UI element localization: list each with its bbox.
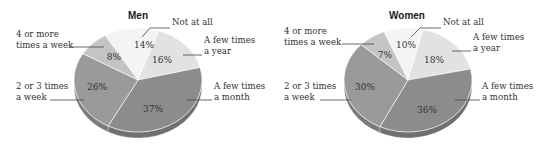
- data-label: 16%: [152, 55, 172, 65]
- data-label: 7%: [378, 50, 393, 60]
- chart-title: Women: [389, 10, 425, 21]
- category-label: A few timesa month: [213, 81, 265, 102]
- category-label: 4 or moretimes a week: [16, 29, 74, 50]
- chart-title: Men: [128, 10, 148, 21]
- pie-chart-men: Men14%16%37%26%8%Not at allA few timesa …: [16, 10, 265, 138]
- data-label: 18%: [424, 55, 444, 65]
- category-label: Not at all: [172, 17, 213, 27]
- category-label: A few timesa year: [472, 32, 524, 53]
- category-label: Not at all: [443, 17, 484, 27]
- category-label: A few timesa month: [481, 81, 533, 102]
- data-label: 30%: [355, 82, 375, 92]
- pie-chart-women: Women10%18%36%30%7%Not at allA few times…: [284, 10, 533, 138]
- data-label: 36%: [417, 105, 437, 115]
- data-label: 14%: [134, 40, 154, 50]
- category-label: 4 or moretimes a week: [284, 26, 342, 47]
- category-label: A few timesa year: [203, 35, 255, 56]
- category-label: 2 or 3 timesa week: [284, 81, 336, 102]
- pie-charts: Men14%16%37%26%8%Not at allA few timesa …: [0, 0, 547, 153]
- data-label: 37%: [143, 104, 163, 114]
- data-label: 10%: [396, 40, 416, 50]
- data-label: 26%: [87, 82, 107, 92]
- category-label: 2 or 3 timesa week: [16, 81, 68, 102]
- data-label: 8%: [107, 52, 122, 62]
